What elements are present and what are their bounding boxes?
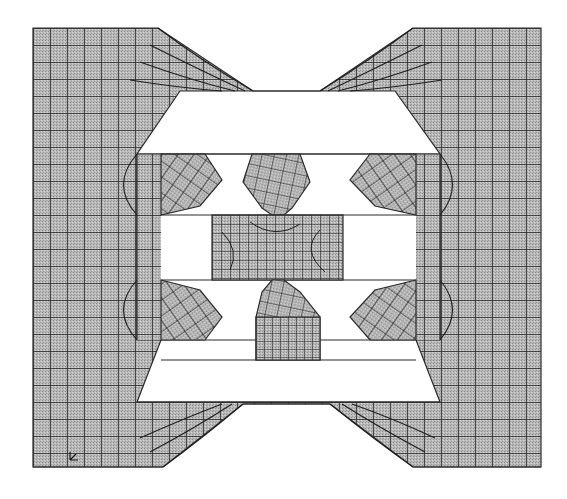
upper-center-hexagon xyxy=(243,154,310,215)
upper-right-notch xyxy=(350,154,416,215)
lower-center-block xyxy=(256,317,320,360)
center-block xyxy=(212,215,343,280)
upper-left-notch xyxy=(161,154,222,215)
mesh-diagram xyxy=(0,0,567,499)
lower-center-pentagon xyxy=(256,280,320,360)
lower-left-notch xyxy=(161,280,222,340)
mesh-figure xyxy=(0,0,567,499)
lower-right-notch xyxy=(350,280,416,340)
